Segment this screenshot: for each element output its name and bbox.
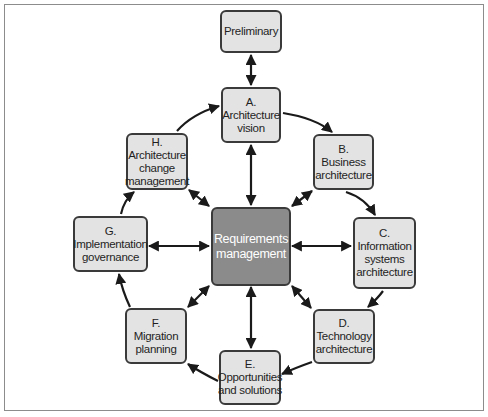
edge-g-h [121,192,134,214]
node-label: Requirements [214,232,288,247]
node-label: and solutions [218,384,282,397]
node-label: Preliminary [224,25,278,38]
edge-center-h [189,190,209,206]
node-label: B. [338,143,348,156]
node-a-architecture-vision: A. Architecture vision [221,87,281,143]
node-e-opportunities-and-solutions: E. Opportunities and solutions [219,350,281,405]
node-label: management [125,175,189,188]
node-label: E. [245,358,255,371]
node-g-implementation-governance: G. Implementation governance [73,216,148,272]
edge-center-d [292,286,311,308]
node-c-information-systems-architecture: C. Information systems architecture [353,217,416,289]
node-label: architecture [356,266,412,279]
node-label: D. [339,317,350,330]
node-label: change [139,162,175,175]
edge-b-c [346,192,375,215]
node-label: vision [237,122,265,135]
node-preliminary: Preliminary [220,10,282,53]
node-label: Business [321,156,365,169]
node-label: A. [246,96,256,109]
node-label: F. [152,317,160,330]
edge-f-g [119,274,130,307]
edge-a-b [283,113,332,132]
node-f-migration-planning: F. Migration planning [125,308,187,364]
edge-h-a [177,106,219,131]
node-d-technology-architecture: D. Technology architecture [313,309,375,364]
edge-e-f [188,364,218,381]
edge-center-b [292,191,312,206]
node-requirements-management: Requirements management [211,207,291,286]
edge-d-e [282,362,312,374]
node-label: systems [364,253,404,266]
node-label: Architecture [222,109,280,122]
node-label: Opportunities [218,371,283,384]
node-label: architecture [316,343,372,356]
node-label: management [216,247,286,262]
edge-center-f [188,286,209,307]
node-label: H. [152,136,163,149]
node-label: planning [135,343,176,356]
node-label: governance [82,251,139,264]
node-label: Information [357,240,411,253]
edge-c-d [368,291,383,307]
node-b-business-architecture: B. Business architecture [313,134,374,190]
node-label: C. [379,227,390,240]
node-label: architecture [315,169,371,182]
node-label: Implementation [73,238,147,251]
node-h-architecture-change-management: H. Architecture change management [126,133,188,190]
node-label: Technology [316,330,371,343]
node-label: G. [105,225,117,238]
node-label: Architecture [128,149,186,162]
node-label: Migration [134,330,179,343]
